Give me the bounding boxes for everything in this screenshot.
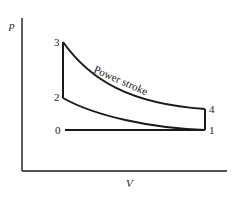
point-label-1: 1 [209,124,215,136]
y-axis-label: p [8,19,15,31]
x-axis-label: V [126,177,134,189]
pv-diagram: p V 3 2 0 1 4 Power stroke [0,0,241,197]
point-label-4: 4 [209,103,215,115]
point-label-3: 3 [54,36,60,48]
point-label-0: 0 [55,124,61,136]
curve-compression-1-2 [63,98,205,130]
point-label-2: 2 [54,91,60,103]
curve-power-stroke-3-4 [63,42,205,109]
